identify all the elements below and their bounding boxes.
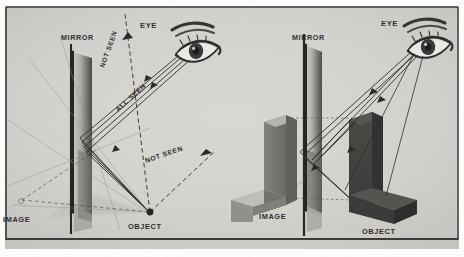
figure-container: MIRROR EYE IMAGE OBJECT NOT SEEN ALL SEE… bbox=[0, 0, 464, 257]
scan-tint bbox=[5, 6, 459, 249]
scanned-plate: MIRROR EYE IMAGE OBJECT NOT SEEN ALL SEE… bbox=[0, 0, 464, 257]
diagram-svg: MIRROR EYE IMAGE OBJECT NOT SEEN ALL SEE… bbox=[0, 0, 464, 257]
